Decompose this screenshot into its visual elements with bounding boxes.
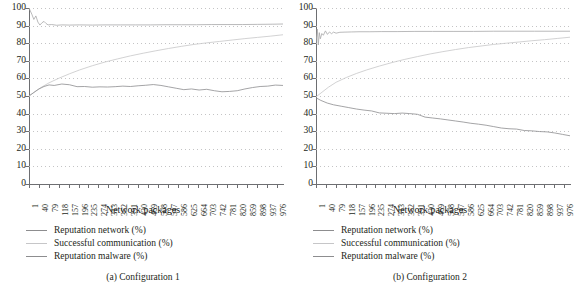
series-line xyxy=(316,37,570,97)
plot-area-right: 0102030405060708090100 14079118157196235… xyxy=(287,0,573,200)
y-tick-label: 30 xyxy=(287,126,313,136)
y-tick-label: 90 xyxy=(0,21,26,31)
y-tick-label: 0 xyxy=(0,179,26,189)
legend-label: Reputation malware (%) xyxy=(54,251,147,262)
y-tick-label: 80 xyxy=(287,38,313,48)
legend-label: Reputation network (%) xyxy=(341,225,433,236)
legend-item[interactable]: Reputation network (%) xyxy=(313,224,563,237)
legend-label: Reputation malware (%) xyxy=(341,251,434,262)
y-tick-label: 100 xyxy=(287,3,313,13)
y-tick-label: 40 xyxy=(0,109,26,119)
legend-item[interactable]: Reputation malware (%) xyxy=(313,250,563,263)
legend-item[interactable]: Reputation network (%) xyxy=(26,224,276,237)
legend-line-swatch-icon xyxy=(26,256,47,257)
legend-label: Reputation network (%) xyxy=(54,225,146,236)
legend-line-swatch-icon xyxy=(313,243,334,244)
legend-item[interactable]: Successful communication (%) xyxy=(313,237,563,250)
y-tick-label: 30 xyxy=(0,126,26,136)
y-tick-label: 80 xyxy=(0,38,26,48)
y-tick-label: 100 xyxy=(0,3,26,13)
y-tick-label: 10 xyxy=(0,161,26,171)
legend-line-swatch-icon xyxy=(26,243,47,244)
caption-left: (a) Configuration 1 xyxy=(0,272,286,282)
legend-right: Reputation network (%)Successful communi… xyxy=(313,224,563,263)
y-tick-label: 60 xyxy=(287,73,313,83)
y-tick-label: 50 xyxy=(287,91,313,101)
legend-line-swatch-icon xyxy=(313,256,334,257)
y-tick-label: 90 xyxy=(287,21,313,31)
x-axis-line-left xyxy=(29,184,284,185)
caption-right: (b) Configuration 2 xyxy=(287,272,573,282)
y-axis-labels-right: 0102030405060708090100 xyxy=(287,0,313,200)
y-tick-label: 20 xyxy=(0,144,26,154)
x-axis-line-right xyxy=(316,184,571,185)
y-axis-labels-left: 0102030405060708090100 xyxy=(0,0,26,200)
y-tick-label: 70 xyxy=(287,56,313,66)
series-lines-right xyxy=(316,8,570,184)
series-lines-left xyxy=(29,8,283,184)
series-line xyxy=(316,98,570,136)
y-tick-mark xyxy=(312,184,316,185)
y-tick-mark xyxy=(25,184,29,185)
legend-line-swatch-icon xyxy=(26,230,47,231)
legend-item[interactable]: Successful communication (%) xyxy=(26,237,276,250)
y-tick-label: 40 xyxy=(287,109,313,119)
legend-label: Successful communication (%) xyxy=(341,238,460,249)
y-tick-label: 20 xyxy=(287,144,313,154)
legend-label: Successful communication (%) xyxy=(54,238,173,249)
y-tick-label: 70 xyxy=(0,56,26,66)
y-tick-label: 50 xyxy=(0,91,26,101)
x-axis-title-left: Network packages xyxy=(0,204,286,215)
y-tick-label: 10 xyxy=(287,161,313,171)
y-tick-label: 60 xyxy=(0,73,26,83)
plot-area-left: 0102030405060708090100 14079118157196235… xyxy=(0,0,286,200)
y-tick-label: 0 xyxy=(287,179,313,189)
series-line xyxy=(316,29,570,45)
legend-item[interactable]: Reputation malware (%) xyxy=(26,250,276,263)
panel-configuration-1: 0102030405060708090100 14079118157196235… xyxy=(0,0,286,294)
panel-configuration-2: 0102030405060708090100 14079118157196235… xyxy=(287,0,573,294)
series-line xyxy=(29,35,283,96)
legend-left: Reputation network (%)Successful communi… xyxy=(26,224,276,263)
x-axis-title-right: Network packages xyxy=(287,204,573,215)
series-line xyxy=(29,84,283,96)
series-line xyxy=(29,8,283,25)
legend-line-swatch-icon xyxy=(313,230,334,231)
